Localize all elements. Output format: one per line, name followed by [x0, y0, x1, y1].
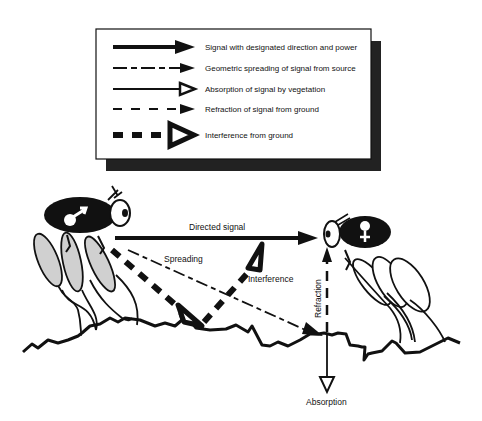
directed-signal-label: Directed signal — [189, 222, 245, 232]
refraction-label: Refraction — [313, 279, 323, 318]
acoustic-signal-diagram: Signal with designated direction and pow… — [0, 0, 482, 421]
directed-signal-arrow — [115, 231, 318, 245]
right-vegetation — [345, 252, 445, 343]
ground-line — [23, 314, 460, 360]
legend-label: Signal with designated direction and pow… — [205, 43, 357, 52]
left-vegetation — [56, 275, 138, 335]
left-leaves — [28, 230, 121, 295]
interference-label: Interference — [248, 274, 294, 284]
legend: Signal with designated direction and pow… — [96, 29, 381, 171]
legend-label: Interference from ground — [205, 131, 293, 140]
absorption-arrow — [320, 334, 334, 392]
sender-body — [44, 197, 116, 233]
absorption-label: Absorption — [306, 397, 347, 407]
spreading-label: Spreading — [164, 254, 203, 264]
legend-label: Absorption of signal by vegetation — [205, 85, 325, 94]
legend-label: Geometric spreading of signal from sourc… — [205, 64, 356, 73]
legend-label: Refraction of signal from ground — [205, 105, 319, 114]
refraction-arrow — [322, 247, 332, 332]
